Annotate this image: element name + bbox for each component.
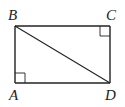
rectangle-diagram: B C A D — [0, 0, 125, 107]
right-angle-mark-c — [100, 26, 110, 36]
vertex-label-a: A — [8, 87, 19, 103]
vertex-label-b: B — [8, 7, 17, 23]
diagonal-bd — [15, 26, 110, 83]
vertex-label-c: C — [106, 7, 117, 23]
vertex-label-d: D — [104, 87, 116, 103]
right-angle-mark-a — [15, 73, 25, 83]
